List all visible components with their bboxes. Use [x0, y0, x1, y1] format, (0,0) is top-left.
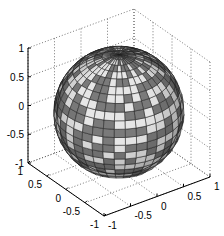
- surface-patch: [124, 94, 133, 103]
- x-tick-label: 0.5: [188, 191, 202, 202]
- surface-patch: [115, 170, 125, 174]
- y-tick-label: 0: [55, 193, 61, 204]
- surface-patch: [106, 94, 115, 103]
- surface-patch: [125, 128, 136, 137]
- surface-patch: [105, 103, 115, 112]
- surface-patch: [103, 144, 114, 152]
- surface-patch: [104, 111, 115, 120]
- y-tick: [85, 201, 87, 203]
- surface-patch: [114, 112, 125, 121]
- surface-patch: [116, 79, 123, 87]
- surface-patch: [103, 129, 114, 138]
- surface-patch: [114, 152, 125, 159]
- surface-patch: [125, 111, 136, 121]
- surface-patch: [115, 87, 123, 95]
- surface-patch: [114, 159, 125, 165]
- x-tick-label: -0.5: [135, 210, 153, 221]
- plot-axes: 10.50-0.5-110.50-0.5-1-1-0.500.51: [0, 0, 224, 236]
- surface-patch: [96, 101, 106, 111]
- surface-patch: [115, 95, 124, 104]
- y-tick-label: 0.5: [28, 179, 42, 190]
- y-tick-label: 1: [17, 166, 23, 177]
- z-tick-label: 1: [18, 43, 24, 54]
- surface-patch: [124, 103, 134, 113]
- surface-patch: [117, 72, 123, 79]
- surface-patch: [125, 144, 136, 152]
- surface-patch: [115, 103, 125, 112]
- z-tick-label: 0: [18, 101, 24, 112]
- x-tick-label: 1: [214, 181, 220, 192]
- surface-patch: [125, 136, 136, 145]
- y-tick-label: -1: [90, 219, 99, 230]
- x-tick-label: -1: [108, 220, 117, 231]
- surface-patch: [103, 120, 114, 129]
- surface-patch: [108, 86, 116, 95]
- surface-patch: [114, 137, 125, 145]
- surface-patch: [103, 137, 114, 146]
- surface-patch: [123, 86, 132, 95]
- y-tick: [66, 188, 68, 190]
- surface-patch: [114, 165, 125, 170]
- surface-patch: [114, 121, 125, 130]
- surface-patch: [103, 152, 114, 159]
- sphere-surface: [54, 46, 184, 178]
- surface-patch: [115, 173, 124, 176]
- z-tick-label: 0.5: [10, 72, 24, 83]
- sphere-plot-figure: 10.50-0.5-110.50-0.5-1-1-0.500.51: [0, 0, 224, 236]
- y-tick: [47, 174, 49, 176]
- x-tick-label: 0: [161, 201, 167, 212]
- surface-patch: [125, 120, 136, 130]
- surface-patch: [114, 145, 125, 152]
- z-tick-label: -0.5: [7, 129, 25, 140]
- y-tick-label: -0.5: [63, 206, 81, 217]
- surface-patch: [114, 129, 125, 137]
